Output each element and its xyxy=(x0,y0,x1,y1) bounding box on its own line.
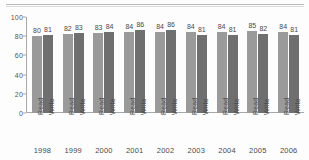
series-tick-write: Write xyxy=(74,114,84,145)
series-tick-label: Write xyxy=(79,98,86,115)
bar-value-label: 81 xyxy=(290,26,298,33)
category-group-1998: ReadWrite1998 xyxy=(27,114,58,160)
series-tick-read: Read xyxy=(155,114,165,145)
y-tick-label: 40 xyxy=(15,71,23,78)
y-tick-label: 100 xyxy=(11,14,23,21)
top-rule-divider xyxy=(6,4,304,5)
x-axis-year-label: 2002 xyxy=(150,146,181,155)
series-tick-read: Read xyxy=(93,114,103,145)
series-tick-labels: ReadWrite xyxy=(119,114,150,145)
category-group-1999: ReadWrite1999 xyxy=(58,114,89,160)
y-tick-mark xyxy=(23,93,26,94)
category-group-2005: ReadWrite2005 xyxy=(242,114,273,160)
bar-value-label: 82 xyxy=(64,25,72,32)
y-tick-label: 80 xyxy=(15,33,23,40)
bar-value-label: 82 xyxy=(260,25,268,32)
series-tick-read: Read xyxy=(217,114,227,145)
series-tick-labels: ReadWrite xyxy=(27,114,58,145)
series-tick-label: Write xyxy=(48,98,55,115)
bar-value-label: 84 xyxy=(218,23,226,30)
category-axis-labels: ReadWrite1998ReadWrite1999ReadWrite2000R… xyxy=(27,114,304,160)
category-group-2002: ReadWrite2002 xyxy=(150,114,181,160)
series-tick-label: Read xyxy=(222,98,229,115)
x-axis-year-label: 2003 xyxy=(181,146,212,155)
x-axis-year-label: 2006 xyxy=(273,146,304,155)
series-tick-write: Write xyxy=(104,114,114,145)
series-tick-label: Read xyxy=(160,98,167,115)
y-tick-label: 0 xyxy=(19,110,23,117)
series-tick-label: Read xyxy=(283,98,290,115)
series-tick-labels: ReadWrite xyxy=(150,114,181,145)
series-tick-label: Read xyxy=(129,98,136,115)
bar-value-label: 84 xyxy=(187,23,195,30)
series-tick-label: Write xyxy=(263,98,270,115)
series-tick-label: Write xyxy=(202,98,209,115)
series-tick-read: Read xyxy=(32,114,42,145)
series-tick-read: Read xyxy=(63,114,73,145)
x-axis-year-label: 2000 xyxy=(89,146,120,155)
x-axis-year-label: 2005 xyxy=(242,146,273,155)
series-tick-read: Read xyxy=(124,114,134,145)
series-tick-write: Write xyxy=(197,114,207,145)
series-tick-label: Read xyxy=(191,98,198,115)
top-rule-divider-secondary xyxy=(6,6,304,7)
series-tick-labels: ReadWrite xyxy=(181,114,212,145)
series-tick-read: Read xyxy=(186,114,196,145)
bar-value-label: 86 xyxy=(167,21,175,28)
x-axis-year-label: 1999 xyxy=(58,146,89,155)
bar-value-label: 80 xyxy=(33,27,41,34)
bar-value-label: 81 xyxy=(229,26,237,33)
category-group-2004: ReadWrite2004 xyxy=(212,114,243,160)
y-tick-mark xyxy=(23,17,26,18)
x-axis-year-label: 2004 xyxy=(212,146,243,155)
series-tick-write: Write xyxy=(289,114,299,145)
category-group-2006: ReadWrite2006 xyxy=(273,114,304,160)
series-tick-write: Write xyxy=(258,114,268,145)
category-group-2000: ReadWrite2000 xyxy=(89,114,120,160)
series-tick-labels: ReadWrite xyxy=(273,114,304,145)
bar-value-label: 81 xyxy=(44,26,52,33)
series-tick-label: Read xyxy=(68,98,75,115)
series-tick-label: Read xyxy=(252,98,259,115)
y-tick-mark xyxy=(23,36,26,37)
bar-value-label: 84 xyxy=(156,23,164,30)
bar-value-label: 83 xyxy=(75,24,83,31)
series-tick-label: Write xyxy=(140,98,147,115)
bar-value-label: 86 xyxy=(136,21,144,28)
series-tick-read: Read xyxy=(247,114,257,145)
y-tick-mark xyxy=(23,74,26,75)
series-tick-write: Write xyxy=(166,114,176,145)
series-tick-write: Write xyxy=(135,114,145,145)
series-tick-label: Write xyxy=(171,98,178,115)
series-tick-write: Write xyxy=(43,114,53,145)
series-tick-read: Read xyxy=(278,114,288,145)
bar-value-label: 84 xyxy=(279,23,287,30)
series-tick-label: Write xyxy=(294,98,301,115)
bar-value-label: 85 xyxy=(249,22,257,29)
series-tick-labels: ReadWrite xyxy=(212,114,243,145)
series-tick-label: Read xyxy=(37,98,44,115)
x-axis-year-label: 1998 xyxy=(27,146,58,155)
series-tick-label: Read xyxy=(98,98,105,115)
series-tick-labels: ReadWrite xyxy=(89,114,120,145)
series-tick-write: Write xyxy=(228,114,238,145)
bar-value-label: 84 xyxy=(125,23,133,30)
series-tick-labels: ReadWrite xyxy=(58,114,89,145)
y-tick-mark xyxy=(23,55,26,56)
bar-value-label: 81 xyxy=(198,26,206,33)
bar-value-label: 83 xyxy=(95,24,103,31)
category-group-2003: ReadWrite2003 xyxy=(181,114,212,160)
category-group-2001: ReadWrite2001 xyxy=(119,114,150,160)
series-tick-labels: ReadWrite xyxy=(242,114,273,145)
bar-value-label: 84 xyxy=(106,23,114,30)
x-axis-year-label: 2001 xyxy=(119,146,150,155)
series-tick-label: Write xyxy=(109,98,116,115)
y-tick-label: 60 xyxy=(15,52,23,59)
bar-chart-figure: 020406080100 808182838384848684868481848… xyxy=(0,0,309,160)
y-tick-label: 20 xyxy=(15,90,23,97)
series-tick-label: Write xyxy=(233,98,240,115)
